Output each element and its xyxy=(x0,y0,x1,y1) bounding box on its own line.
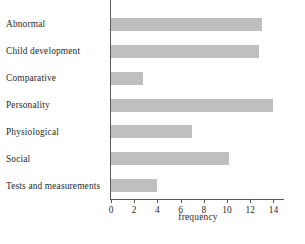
bar xyxy=(111,18,262,31)
plot-area: 02468101214 xyxy=(111,11,285,199)
x-tick-mark xyxy=(250,199,251,203)
bar xyxy=(111,179,157,192)
x-axis-line xyxy=(110,199,284,200)
bar xyxy=(111,45,259,58)
category-label-tests-and-measurements: Tests and measurements xyxy=(0,181,106,191)
category-axis-labels: Abnormal Child development Comparative P… xyxy=(0,11,108,199)
category-label-personality: Personality xyxy=(0,100,106,110)
bar xyxy=(111,152,229,165)
bar xyxy=(111,72,143,85)
x-tick-mark xyxy=(181,199,182,203)
x-tick-mark xyxy=(204,199,205,203)
x-tick-mark xyxy=(273,199,274,203)
category-label-abnormal: Abnormal xyxy=(0,19,106,29)
bar xyxy=(111,99,273,112)
x-tick-mark xyxy=(134,199,135,203)
x-tick-mark xyxy=(111,199,112,203)
x-axis-title: frequency xyxy=(111,212,285,223)
category-label-physiological: Physiological xyxy=(0,127,106,137)
x-tick-mark xyxy=(157,199,158,203)
bar-chart: Abnormal Child development Comparative P… xyxy=(0,0,305,244)
category-label-comparative: Comparative xyxy=(0,73,106,83)
category-label-child-development: Child development xyxy=(0,46,106,56)
x-tick-mark xyxy=(227,199,228,203)
bar xyxy=(111,125,192,138)
category-label-social: Social xyxy=(0,154,106,164)
